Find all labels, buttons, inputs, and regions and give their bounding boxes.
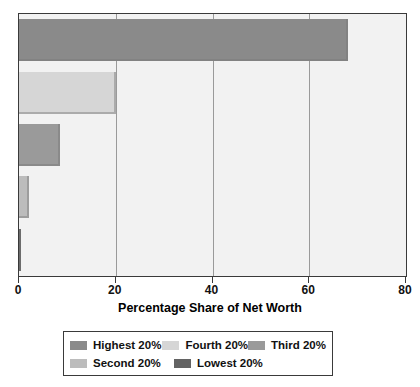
legend-item-second-20[interactable]: Second 20%	[70, 357, 174, 369]
legend-swatch-highest-20	[70, 341, 87, 350]
legend-label-lowest-20: Lowest 20%	[197, 357, 263, 369]
legend-item-highest-20[interactable]: Highest 20%	[70, 339, 162, 351]
legend-swatch-fourth-20	[162, 341, 179, 350]
legend-row: Second 20% Lowest 20%	[70, 354, 326, 372]
x-tick-label: 20	[95, 283, 135, 297]
legend-item-lowest-20[interactable]: Lowest 20%	[174, 357, 269, 369]
legend-swatch-third-20	[248, 341, 265, 350]
legend-swatch-second-20	[70, 359, 87, 368]
bar-third-20	[19, 124, 60, 166]
bar-fourth-20	[19, 72, 116, 114]
x-tick-label: 60	[288, 283, 328, 297]
bar-second-20	[19, 176, 29, 218]
x-tick-label: 80	[385, 283, 420, 297]
legend-swatch-lowest-20	[174, 359, 191, 368]
plot-area	[18, 13, 407, 277]
legend-label-second-20: Second 20%	[93, 357, 161, 369]
x-axis-title: Percentage Share of Net Worth	[0, 301, 420, 315]
legend-row: Highest 20% Fourth 20% Third 20%	[70, 336, 326, 354]
bars-layer	[19, 14, 406, 276]
legend-label-highest-20: Highest 20%	[93, 339, 161, 351]
bar-chart: 020406080 Percentage Share of Net Worth …	[0, 0, 420, 387]
bar-lowest-20	[19, 229, 21, 271]
legend-label-third-20: Third 20%	[271, 339, 326, 351]
legend-item-third-20[interactable]: Third 20%	[248, 339, 326, 351]
legend-item-fourth-20[interactable]: Fourth 20%	[162, 339, 248, 351]
legend-label-fourth-20: Fourth 20%	[185, 339, 248, 351]
legend: Highest 20% Fourth 20% Third 20% Second …	[63, 331, 333, 376]
bar-highest-20	[19, 19, 348, 61]
x-tick-label: 40	[192, 283, 232, 297]
x-tick-label: 0	[0, 283, 38, 297]
